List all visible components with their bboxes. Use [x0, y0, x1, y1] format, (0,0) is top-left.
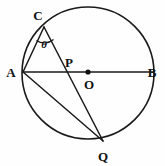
segment-CQ-chord	[44, 27, 103, 141]
point-label-C: C	[33, 9, 42, 22]
point-label-A: A	[6, 66, 15, 79]
point-label-Q: Q	[98, 150, 108, 163]
point-label-B: B	[148, 66, 157, 79]
point-label-O: O	[84, 78, 94, 91]
geometry-figure: A B C P O Q θ	[0, 0, 165, 166]
center-point-dot	[85, 69, 90, 74]
angle-theta-label: θ	[41, 39, 47, 50]
point-label-P: P	[65, 56, 73, 69]
geometry-canvas	[0, 0, 165, 166]
